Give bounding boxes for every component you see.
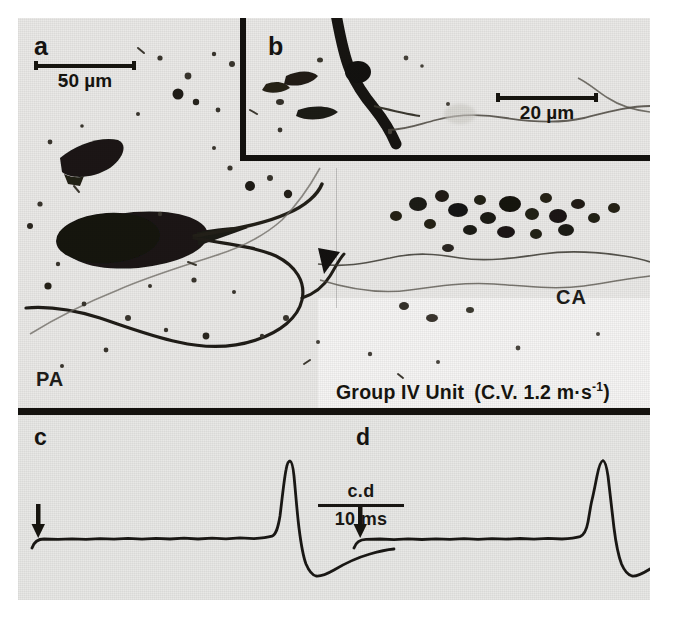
panel-b-border-bottom xyxy=(240,155,650,161)
scale-bar-50um-line xyxy=(34,64,136,68)
stimulus-arrow-c xyxy=(32,504,46,538)
scale-bar-20um-label: 20 µm xyxy=(496,102,598,124)
paper-margin-right xyxy=(650,0,680,627)
unit-caption-exponent: -1 xyxy=(592,380,603,394)
photographic-plate: a b c d PA CA 50 µm 20 µm c.d 10 ms Grou… xyxy=(18,18,650,600)
panel-b-border-left xyxy=(240,18,246,161)
unit-caption-main: Group IV Unit (C.V. 1.2 m·s xyxy=(336,381,592,403)
tissue-label-pa: PA xyxy=(36,368,64,391)
panel-label-a: a xyxy=(34,34,48,59)
panel-label-c: c xyxy=(34,426,47,449)
time-calibration-rule xyxy=(318,504,404,507)
print-seam-line xyxy=(336,168,337,308)
paper-margin-top xyxy=(0,0,680,18)
scale-bar-20um: 20 µm xyxy=(496,96,598,124)
paper-margin-bottom xyxy=(0,600,680,627)
panel-label-b: b xyxy=(268,34,283,59)
tissue-label-ca: CA xyxy=(556,286,587,309)
time-calibration-panels: c.d xyxy=(318,480,404,503)
scale-bar-50um: 50 µm xyxy=(34,64,136,92)
panel-divider-bar xyxy=(18,408,650,415)
paper-margin-left xyxy=(0,0,18,627)
figure-root: a b c d PA CA 50 µm 20 µm c.d 10 ms Grou… xyxy=(0,0,680,627)
scale-bar-20um-line xyxy=(496,96,598,100)
time-calibration-duration: 10 ms xyxy=(318,508,404,531)
scale-bar-50um-label: 50 µm xyxy=(34,70,136,92)
unit-caption: Group IV Unit (C.V. 1.2 m·s-1) xyxy=(336,380,610,404)
unit-caption-close: ) xyxy=(603,381,610,403)
panel-label-d: d xyxy=(356,426,370,449)
time-calibration: c.d 10 ms xyxy=(318,480,404,530)
